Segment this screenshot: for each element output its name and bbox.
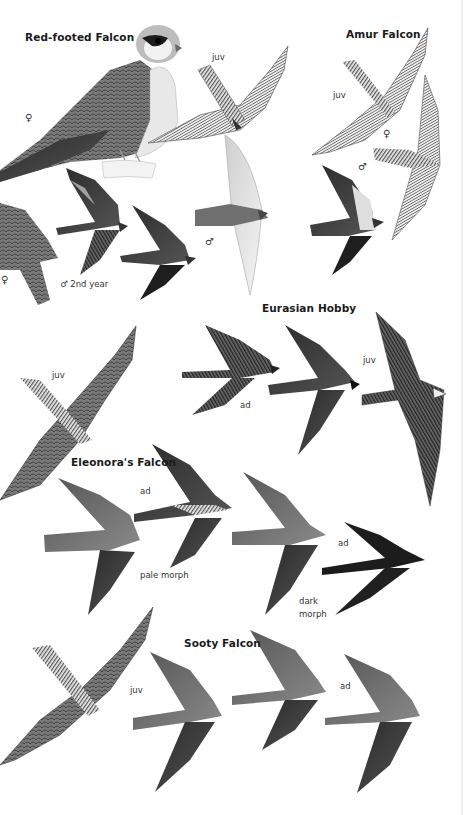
species-title-eleonoras-falcon: Eleonora's Falcon bbox=[71, 456, 176, 468]
species-title-eurasian-hobby: Eurasian Hobby bbox=[262, 302, 356, 314]
eleonoras-falcon-dark-morph-2 bbox=[322, 522, 425, 615]
eleonoras-falcon-pale-morph-1 bbox=[44, 478, 140, 615]
label-juv: juv bbox=[212, 52, 225, 62]
label-ad: ad bbox=[140, 486, 151, 496]
species-title-sooty-falcon: Sooty Falcon bbox=[184, 637, 261, 649]
label-female-symbol: ♀ bbox=[1, 274, 8, 285]
label-male-2nd-year: ♂ 2nd year bbox=[60, 279, 108, 289]
label-juv: juv bbox=[130, 685, 143, 695]
amur-falcon-juvenile bbox=[312, 28, 428, 155]
label-female-symbol: ♀ bbox=[383, 128, 390, 139]
label-pale-morph: pale morph bbox=[140, 570, 189, 580]
field-guide-plate: Red-footed Falcon Amur Falcon Eurasian H… bbox=[0, 0, 463, 815]
label-female-symbol: ♀ bbox=[25, 112, 32, 123]
falcon-illustrations bbox=[0, 0, 463, 815]
label-juv: juv bbox=[363, 355, 376, 365]
label-male-symbol: ♂ bbox=[358, 161, 367, 172]
eurasian-hobby-adult-1 bbox=[182, 325, 280, 415]
red-footed-falcon-male-adult bbox=[120, 205, 196, 300]
red-footed-falcon-female-flight bbox=[0, 203, 58, 305]
amur-falcon-male bbox=[310, 165, 384, 275]
red-footed-falcon-male-flight bbox=[195, 135, 268, 295]
eurasian-hobby-adult-2 bbox=[268, 325, 360, 455]
eurasian-hobby-juvenile-left bbox=[0, 326, 136, 500]
red-footed-falcon-female-perched bbox=[0, 25, 182, 182]
sooty-falcon-juvenile bbox=[133, 652, 222, 792]
label-dark: dark bbox=[299, 596, 318, 606]
label-morph: morph bbox=[299, 609, 327, 619]
species-title-amur-falcon: Amur Falcon bbox=[346, 28, 421, 40]
label-male-symbol: ♂ bbox=[205, 236, 214, 247]
label-ad: ad bbox=[338, 538, 349, 548]
red-footed-falcon-male-2nd-year bbox=[56, 168, 128, 275]
label-juv: juv bbox=[333, 90, 346, 100]
label-juv: juv bbox=[52, 370, 65, 380]
label-ad: ad bbox=[340, 681, 351, 691]
sooty-falcon-adult-2 bbox=[325, 654, 420, 793]
eleonoras-falcon-dark-morph-1 bbox=[232, 472, 326, 615]
label-ad: ad bbox=[240, 400, 251, 410]
eurasian-hobby-juvenile-right bbox=[362, 312, 446, 506]
species-title-red-footed-falcon: Red-footed Falcon bbox=[25, 31, 134, 43]
